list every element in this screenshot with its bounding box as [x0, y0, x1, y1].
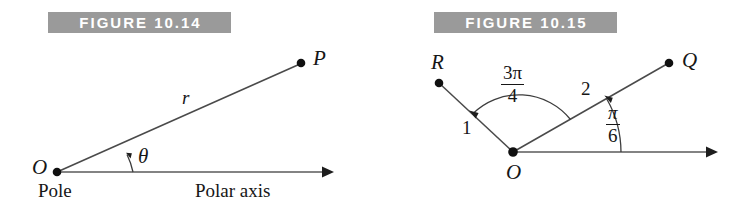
point-q-dot: [665, 59, 674, 68]
angle-pi-over-6-numerator: π: [606, 103, 620, 124]
angle-3pi-over-4-denominator: 4: [501, 84, 524, 106]
length-oq-label: 2: [581, 79, 591, 98]
length-or-label: 1: [462, 118, 472, 137]
pole-caption: Pole: [38, 181, 72, 200]
figure-10-14-panel: FIGURE 10.14 O P r θ Pole Polar axis: [0, 0, 374, 206]
origin-label-o: O: [506, 162, 521, 183]
theta-angle-label: θ: [138, 146, 148, 167]
figure-sheet: FIGURE 10.14 O P r θ Pole Polar axis FIG…: [0, 0, 748, 206]
angle-pi-over-6-label: π 6: [606, 103, 620, 146]
radius-ray-op: [57, 64, 300, 172]
point-p-label: P: [313, 48, 326, 69]
angle-pi-over-6-denominator: 6: [606, 124, 620, 146]
point-p-dot: [297, 59, 306, 68]
polar-axis-arrowhead: [322, 167, 334, 178]
origin-point-dot: [53, 168, 62, 177]
origin-label-o: O: [32, 157, 47, 178]
point-r-dot: [435, 79, 444, 88]
point-q-label: Q: [682, 50, 697, 71]
polar-axis-arrowhead: [706, 147, 718, 158]
radius-length-label-r: r: [182, 88, 189, 107]
polar-axis-caption: Polar axis: [195, 181, 270, 200]
point-r-label: R: [431, 52, 444, 73]
angle-3pi-over-4-numerator: 3π: [501, 63, 524, 84]
angle-3pi-over-4-label: 3π 4: [501, 63, 524, 106]
figure-10-15-panel: FIGURE 10.15 R Q O 1 2: [374, 0, 748, 206]
figure-10-15-drawing: [374, 0, 748, 206]
origin-point-dot: [508, 147, 518, 157]
